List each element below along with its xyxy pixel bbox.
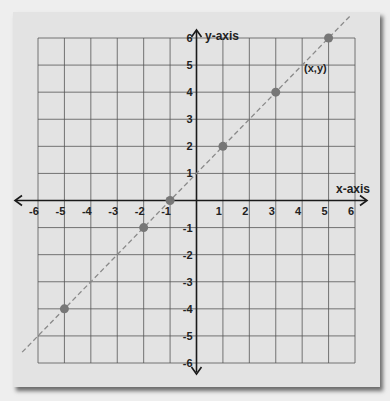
x-tick-label: -5 xyxy=(56,205,66,217)
y-tick-label: -3 xyxy=(183,276,193,288)
y-tick-label: -1 xyxy=(183,222,193,234)
y-tick-label: 2 xyxy=(186,140,192,152)
y-tick-label: -4 xyxy=(183,303,194,315)
x-tick-label: -1 xyxy=(161,205,171,217)
y-tick-label: 5 xyxy=(186,59,192,71)
coordinate-plane: -6-5-4-3-2-1123456 654321-1-2-3-4-5-6 x-… xyxy=(0,0,390,401)
y-tick-label: -2 xyxy=(183,249,193,261)
x-tick-label: 6 xyxy=(348,205,354,217)
data-point xyxy=(166,196,175,205)
data-point xyxy=(271,88,280,97)
x-tick-label: 3 xyxy=(269,205,275,217)
x-axis-label: x-axis xyxy=(336,182,370,196)
x-tick-label: 1 xyxy=(216,205,222,217)
x-tick-label: -4 xyxy=(82,205,93,217)
x-tick-label: 2 xyxy=(242,205,248,217)
x-tick-label: -2 xyxy=(135,205,145,217)
y-tick-label: 6 xyxy=(186,32,192,44)
data-point xyxy=(324,34,333,43)
y-axis-label: y-axis xyxy=(205,29,239,43)
x-tick-label: -3 xyxy=(108,205,118,217)
y-tick-label: -6 xyxy=(183,357,193,369)
data-point xyxy=(218,142,227,151)
axes xyxy=(15,30,367,374)
data-point xyxy=(60,304,69,313)
x-tick-labels: -6-5-4-3-2-1123456 xyxy=(29,205,354,217)
y-tick-label: 4 xyxy=(186,86,193,98)
point-annotation: (x,y) xyxy=(304,62,327,74)
y-tick-label: 3 xyxy=(186,113,192,125)
data-point xyxy=(139,223,148,232)
x-tick-label: 4 xyxy=(295,205,302,217)
x-tick-label: 5 xyxy=(322,205,328,217)
y-tick-label: -5 xyxy=(183,330,193,342)
x-tick-label: -6 xyxy=(29,205,39,217)
